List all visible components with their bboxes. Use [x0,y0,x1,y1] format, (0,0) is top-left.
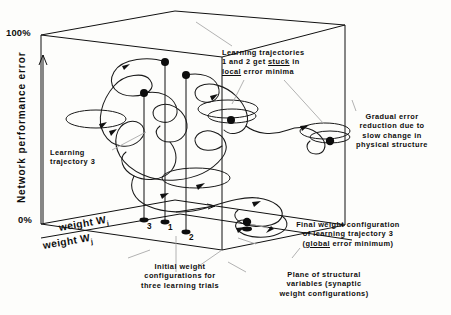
annotation-trajectory-3-line1: Learning [50,148,85,157]
annotation-local-minima-local: local [222,67,241,76]
annotation-local-minima-line3b: error minima [241,67,294,76]
annotation-trajectory-3-line2: trajectory 3 [50,157,95,166]
leader-local-minima-to-basin2 [284,80,324,124]
annotation-local-minima-stuck: stuck [268,57,290,66]
axis-label-vertical: Network performance error [16,52,27,203]
point-label-2: 2 [189,233,194,242]
annotation-local-minima-line2b: in [290,57,300,66]
wireframe-box [41,11,352,250]
annotation-local-minima-line1: Learning trajectories [222,48,305,57]
annotation-gradual-reduction: Gradual errorreduction due toslow change… [336,112,448,150]
annotation-initial-line2: configurations for [144,271,215,280]
local-minimum-dot-1 [227,116,235,124]
start-dot-3 [140,89,148,97]
point-label-1: 1 [168,223,173,232]
leader-gradual [352,100,356,111]
annotation-local-minima-line2a: 1 and 2 get [222,57,268,66]
leader-final-config-2 [238,238,256,244]
annotation-local-minima: Learning trajectories1 and 2 get stuck i… [222,48,305,76]
leader-initial-left [128,250,150,258]
annotation-gradual-line2: reduction due to [359,121,424,130]
annotation-gradual-line4: physical structure [356,140,428,149]
local-minimum-dot-2 [326,137,334,145]
annotation-initial-configurations: Initial weightconfigurations forthree le… [112,262,248,290]
leader-plane-2 [292,248,300,258]
annotation-gradual-line3: slow change in [362,131,421,140]
annotation-trajectory-3: Learningtrajectory 3 [50,148,95,167]
annotation-gradual-line1: Gradual error [365,112,418,121]
learning-trajectory-3 [122,92,287,237]
figure-canvas: 100% 0% Network performance error weight… [0,0,451,315]
learning-trajectory-1 [100,59,226,180]
annotation-plane-line2: variables (synaptic [286,279,361,288]
annotation-initial-line3: three learning trials [141,281,219,290]
axis-tick-0: 0% [18,214,32,225]
annotation-final-line3b: error minimum) [330,239,393,248]
annotation-final-line2: of learning trajectory 3 [303,229,393,238]
point-label-3: 3 [147,222,152,231]
annotation-final-line1: Final weight configuration [296,220,400,229]
annotation-plane-structural: Plane of structuralvariables (synapticwe… [250,270,398,298]
start-dot-2 [182,71,190,79]
leader-local-minima-left [196,22,232,46]
global-minimum-dot [243,218,251,226]
axis-tick-100: 100% [6,27,31,38]
y-axis-arrow [39,55,47,223]
annotation-final-global: global [306,239,330,248]
annotation-final-configuration: Final weight configurationof learning tr… [262,220,434,248]
annotation-plane-line3: weight configurations) [279,289,368,298]
start-dot-1 [161,58,169,66]
annotation-initial-line1: Initial weight [154,262,205,271]
annotation-plane-line1: Plane of structural [287,270,360,279]
